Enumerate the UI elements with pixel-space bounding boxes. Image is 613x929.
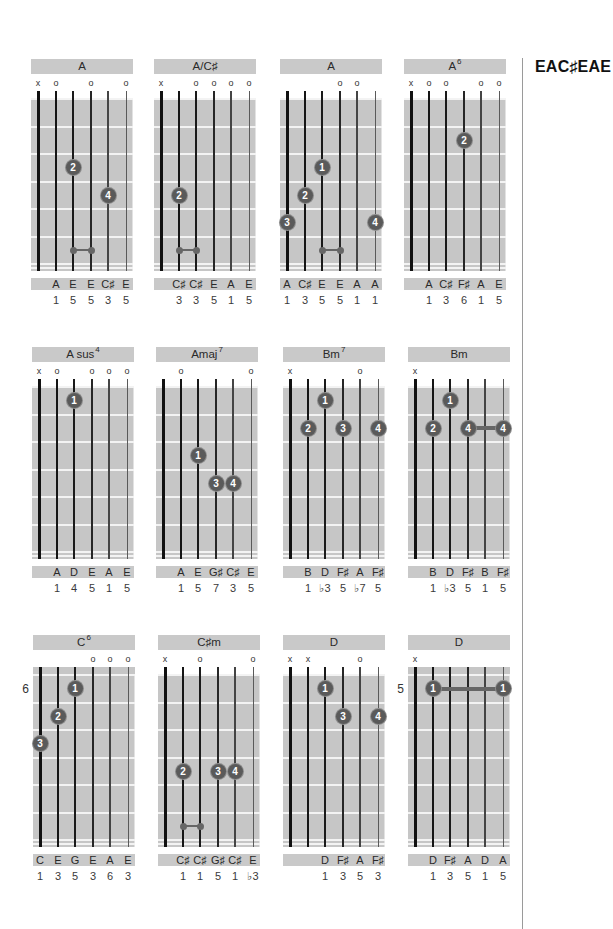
open-string-marker: o (122, 654, 134, 664)
fretboard: 1234 (283, 379, 385, 559)
interval-degree: 1 (472, 294, 490, 306)
guitar-string (55, 91, 58, 271)
chord-name-text: A (327, 60, 335, 72)
muted-string-marker: x (302, 654, 314, 664)
fretboard: 1244 (408, 379, 510, 559)
finger-dot: 2 (298, 188, 313, 203)
small-marker-dot (180, 823, 187, 830)
note-name: A (172, 566, 190, 578)
interval-degree: 6 (455, 294, 473, 306)
finger-dot: 1 (496, 681, 511, 696)
note-name: E (331, 278, 349, 290)
guitar-string (108, 379, 110, 559)
finger-dot: 2 (301, 421, 316, 436)
guitar-string (92, 667, 94, 847)
fret-line (280, 153, 382, 155)
open-string-marker: o (247, 654, 259, 664)
guitar-string (342, 379, 344, 559)
fret-line (404, 267, 506, 269)
interval-degree: 3 (170, 294, 188, 306)
note-name: F♯ (441, 854, 459, 866)
note-name: A (494, 854, 512, 866)
fret-line (280, 263, 382, 265)
fret-line (408, 839, 510, 841)
fret-line (32, 414, 134, 416)
guitar-string (484, 667, 486, 847)
fret-line (158, 812, 260, 814)
fret-line (283, 812, 385, 814)
interval-degree: 3 (49, 870, 67, 882)
open-string-marker: o (85, 78, 97, 88)
open-string-marker: o (354, 654, 366, 664)
note-name: C♯ (191, 854, 209, 866)
open-string-marker: o (440, 78, 452, 88)
note-names-bar: AC♯EEAA (280, 278, 382, 290)
guitar-string (307, 667, 310, 847)
fretboard: 123 (33, 667, 135, 847)
chord-name: D (408, 635, 510, 650)
fretboard: 134 (283, 667, 385, 847)
guitar-string (57, 667, 60, 847)
interval-degree: 5 (459, 870, 477, 882)
open-string-marker: o (50, 78, 62, 88)
note-name: E (64, 278, 82, 290)
guitar-string (38, 379, 41, 559)
interval-degree: 3 (224, 582, 242, 594)
finger-dot: 2 (172, 188, 187, 203)
fret-line (408, 386, 510, 388)
guitar-string (467, 667, 469, 847)
guitar-string (339, 91, 341, 271)
guitar-string (289, 379, 292, 559)
fret-line (283, 524, 385, 526)
note-name: E (189, 566, 207, 578)
note-name: B (476, 566, 494, 578)
fret-line (33, 843, 135, 845)
note-name: C♯ (226, 854, 244, 866)
small-marker-dot (337, 247, 344, 254)
chord-name-superscript: 7 (218, 345, 222, 354)
finger-dot: 3 (280, 215, 295, 230)
open-string-marker: o (194, 654, 206, 664)
chord-diagram: C6ooo1236CEGEAE135363 (33, 635, 135, 885)
fret-line (154, 236, 256, 238)
finger-dot: 3 (33, 736, 48, 751)
guitar-string (356, 91, 358, 271)
chord-name-text: D (330, 636, 338, 648)
guitar-string (432, 379, 435, 559)
interval-degree: 1 (278, 294, 296, 306)
chord-diagram: A6xoooo2AC♯F♯AE13615 (404, 59, 506, 309)
chord-name-superscript: 7 (341, 345, 345, 354)
fret-line (154, 153, 256, 155)
interval-degree: 3 (334, 870, 352, 882)
interval-degree: 4 (65, 582, 83, 594)
chord-name-text: Amaj (191, 348, 217, 360)
fret-line (33, 784, 135, 786)
note-name: F♯ (334, 854, 352, 866)
interval-degree: 1 (424, 870, 442, 882)
interval-degree: 1 (476, 582, 494, 594)
muted-string-marker: x (32, 78, 44, 88)
interval-degree: 5 (331, 294, 349, 306)
fret-line (32, 524, 134, 526)
note-name: C♯ (437, 278, 455, 290)
open-string-marker: o (475, 78, 487, 88)
chord-diagram: Amaj7oo134AEG♯C♯E15735 (156, 347, 258, 597)
finger-dot: 1 (318, 681, 333, 696)
guitar-string (182, 667, 185, 847)
note-name: D (424, 854, 442, 866)
guitar-string (286, 91, 289, 271)
guitar-string (289, 667, 292, 847)
fret-line (31, 208, 133, 210)
fret-line (156, 555, 258, 557)
interval-degree: 5 (313, 294, 331, 306)
fret-line (283, 729, 385, 731)
guitar-string (445, 91, 447, 271)
fret-line (280, 236, 382, 238)
open-string-marker: o (104, 654, 116, 664)
note-name: A (351, 566, 369, 578)
note-name: C♯ (99, 278, 117, 290)
interval-degree: 1 (299, 582, 317, 594)
small-marker-dot (88, 247, 95, 254)
chord-name: A (280, 59, 382, 74)
fret-line (156, 469, 258, 471)
